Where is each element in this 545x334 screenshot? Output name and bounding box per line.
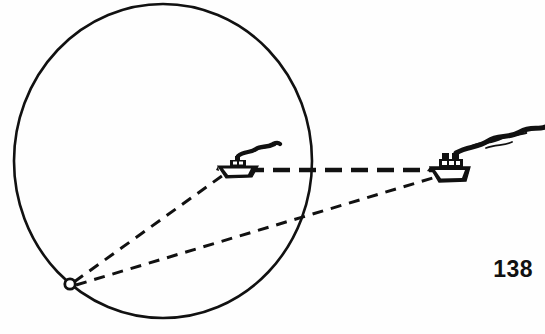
page-number: 138 xyxy=(493,258,533,281)
far-ship-icon xyxy=(427,127,545,182)
observer-point xyxy=(65,279,75,289)
near-ship-icon xyxy=(216,143,280,178)
circle-of-position xyxy=(14,4,312,318)
sight-line-to-far-ship xyxy=(76,174,446,285)
figure-page: 138 xyxy=(0,0,545,334)
figure-canvas xyxy=(0,0,545,334)
sight-line-to-near-ship xyxy=(74,173,226,282)
